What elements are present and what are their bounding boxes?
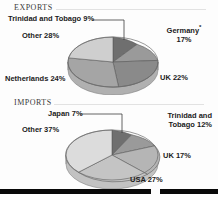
exports-label-other: Other 28%: [22, 31, 59, 40]
imports-label-uk: UK 17%: [163, 151, 191, 160]
exports-label-netherlands: Netherlands 24%: [5, 74, 65, 83]
imports-label-usa: USA 27%: [130, 175, 163, 184]
footer-bar-right: [160, 189, 218, 194]
footer-bars: [0, 186, 218, 200]
figure-page: EXPORTS: [0, 0, 218, 200]
imports-label-trinidad-and-tobago: Trinidad and Tobago 12%: [140, 111, 212, 129]
footer-bar-left: [0, 189, 151, 194]
imports-label-trinidad-line1: Trinidad and: [140, 111, 212, 120]
exports-label-uk: UK 22%: [160, 73, 188, 82]
imports-label-other: Other 37%: [22, 125, 59, 134]
exports-label-germany: Germany* 17%: [156, 23, 212, 44]
exports-panel: EXPORTS: [0, 0, 218, 95]
imports-label-japan: Japan 7%: [48, 109, 83, 118]
exports-label-germany-text: Germany: [167, 26, 200, 35]
imports-panel: IMPORTS: [0, 96, 218, 191]
exports-label-germany-value: 17%: [156, 35, 212, 44]
exports-label-trinidad-and-tobago: Trinidad and Tobago 9%: [8, 14, 94, 23]
exports-label-germany-footnote-marker: *: [199, 24, 201, 30]
imports-label-trinidad-line2: Tobago 12%: [140, 120, 212, 129]
